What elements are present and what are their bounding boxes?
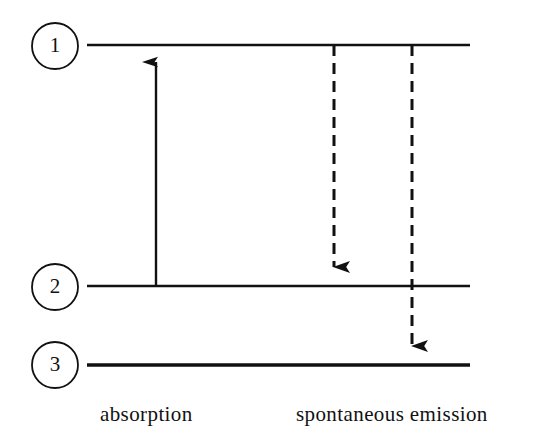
caption-absorption: absorption [100,402,193,426]
caption-spontaneous-emission: spontaneous emission [296,402,488,426]
level-2-group: 2 [32,264,470,310]
level-3-label: 3 [50,352,61,376]
diagram-canvas: 1 2 3 absorption spontaneous emis [0,0,539,448]
energy-level-diagram-figure: 1 2 3 absorption spontaneous emis [0,0,539,448]
level-1-group: 1 [32,23,470,69]
level-3-group: 3 [32,342,470,388]
level-2-label: 2 [50,274,61,298]
level-1-label: 1 [50,33,61,57]
